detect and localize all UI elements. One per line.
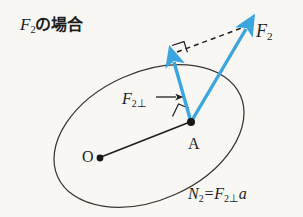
lever-arm-line: [101, 122, 190, 157]
torque-radius-symbol: a: [239, 185, 247, 202]
force-vector-subscript: 2: [267, 30, 272, 42]
torque-equation: N2=F2⊥a: [188, 186, 247, 205]
point-a-label: A: [188, 136, 200, 152]
perp-component-perp-sign: ⊥: [137, 98, 147, 109]
torque-perp-sign: ⊥: [229, 193, 239, 204]
force-vector-label: F2: [256, 22, 272, 42]
figure-container: F2の場合 F2 F2⊥ A O N2=F2⊥a: [0, 0, 303, 217]
point-o-label: O: [82, 149, 94, 165]
torque-force-symbol: F: [214, 185, 224, 202]
force-vector-symbol: F: [256, 21, 267, 41]
vector-f2: [191, 29, 246, 122]
title-symbol: F: [20, 15, 30, 34]
title-japanese-text: の場合: [35, 15, 83, 34]
torque-symbol: N: [188, 185, 199, 202]
equals-sign: =: [203, 185, 214, 202]
point-a-dot: [187, 118, 195, 126]
perpendicular-component-label: F2⊥: [122, 91, 147, 110]
figure-title: F2の場合: [20, 16, 83, 35]
vector-f2-perp: [174, 62, 191, 122]
perp-component-symbol: F: [122, 90, 132, 107]
point-o-dot: [97, 155, 104, 162]
